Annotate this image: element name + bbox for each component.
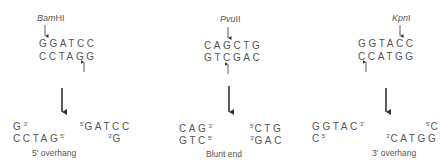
top-strand: GGTACC xyxy=(358,38,416,49)
result-label: Blunt end xyxy=(206,149,242,159)
left-fragment-bottom: C5' xyxy=(312,133,326,144)
right-fragment-bottom: 3'GAC xyxy=(250,135,284,146)
bottom-strand: GTCGAC xyxy=(204,52,262,63)
right-fragment-bottom: 3'G xyxy=(108,133,123,144)
top-strand: GGATCC xyxy=(39,38,97,49)
result-label: 3' overhang xyxy=(372,148,416,158)
bottom-strand: CCTAGG xyxy=(39,51,97,62)
result-label: 5' overhang xyxy=(32,148,76,158)
right-fragment-top: 5'C xyxy=(426,121,440,132)
enzyme-name-pvuii: PvuII xyxy=(220,14,241,24)
left-fragment-top: CAG3' xyxy=(179,123,213,134)
left-fragment-top: G3' xyxy=(13,121,28,132)
right-fragment-top: 5'CTG xyxy=(250,123,283,134)
right-fragment-top: 5'GATCC xyxy=(80,121,132,132)
top-strand: CAGCTG xyxy=(204,40,262,51)
arrows-layer xyxy=(0,0,448,167)
enzyme-name-kpni: KpnI xyxy=(392,13,411,23)
enzyme-name-bamhi: BamHI xyxy=(37,13,65,23)
left-fragment-top: GGTAC3' xyxy=(312,121,364,132)
left-fragment-bottom: CCTAG5' xyxy=(13,133,65,144)
bottom-strand: CCATGG xyxy=(358,51,416,62)
right-fragment-bottom: 3'CATGG xyxy=(386,133,438,144)
left-fragment-bottom: GTC5' xyxy=(179,135,212,146)
